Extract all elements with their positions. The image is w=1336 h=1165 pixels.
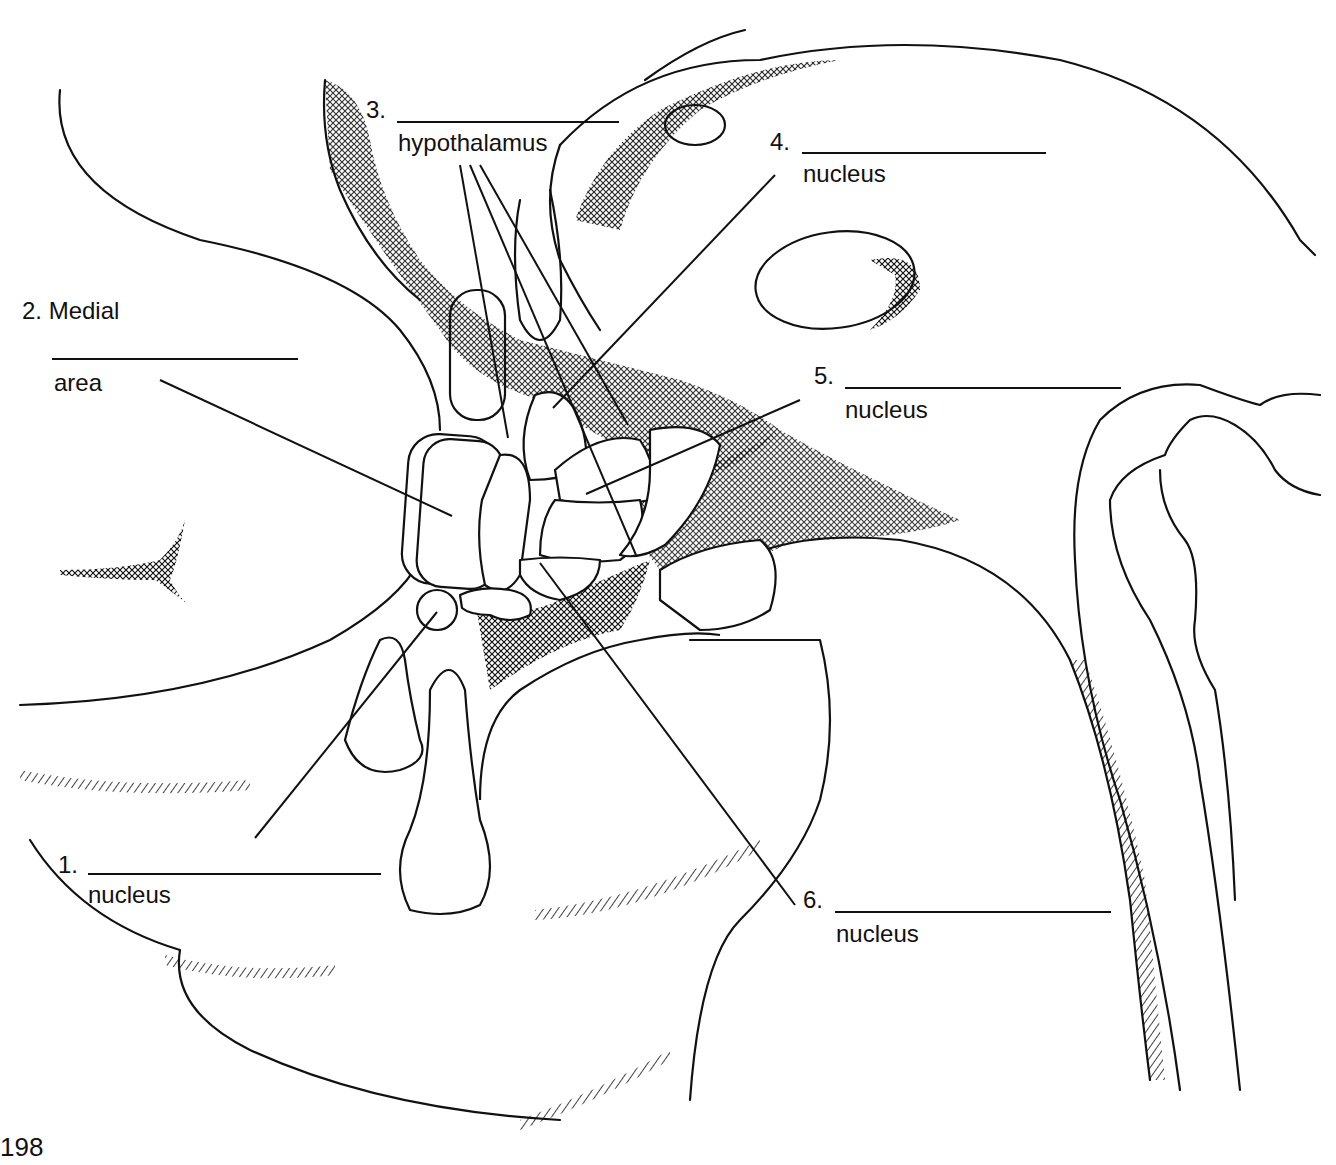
aqueduct-inner2	[1160, 470, 1235, 900]
label-3-number: 3.	[366, 97, 386, 123]
hatch-pons-mid	[535, 840, 760, 920]
nucleus-supraoptic	[460, 588, 531, 620]
hatch-pons-bottom	[520, 1050, 670, 1130]
pituitary-stalk	[345, 638, 423, 773]
outer-contour-arc	[560, 45, 1315, 255]
hatch-upper-arc	[575, 60, 840, 230]
hatch-left-star	[60, 520, 195, 610]
outer-contour-top	[645, 30, 745, 80]
hatch-left-arc1	[20, 770, 250, 793]
label-1-number: 1.	[58, 852, 78, 878]
paraventricular-lobe	[515, 190, 561, 340]
label-2-suffix: area	[54, 370, 102, 396]
leader-line-2	[160, 380, 452, 516]
label-3-suffix: hypothalamus	[398, 130, 547, 156]
label-4-answer-blank[interactable]	[802, 152, 1046, 154]
lower-left-contour	[20, 560, 420, 705]
hatch-pons-lower	[165, 955, 335, 978]
hatch-commissure	[870, 258, 920, 330]
label-5-answer-blank[interactable]	[845, 387, 1121, 389]
label-4-number: 4.	[770, 129, 790, 155]
label-3-answer-blank[interactable]	[397, 121, 619, 123]
label-1-suffix: nucleus	[88, 882, 171, 908]
label-6-answer-blank[interactable]	[835, 911, 1111, 913]
label-5-suffix: nucleus	[845, 397, 928, 423]
label-5-number: 5.	[814, 363, 834, 389]
label-2-answer-blank[interactable]	[52, 358, 298, 360]
midbrain-contour	[740, 538, 1150, 1081]
label-6-suffix: nucleus	[836, 921, 919, 947]
anterior-commissure	[749, 221, 921, 338]
page-number: 198	[0, 1132, 43, 1163]
left-contour	[59, 90, 440, 430]
hatch-right-edge	[1070, 660, 1165, 1080]
nucleus-suprachiasmatic	[417, 590, 457, 630]
label-6-number: 6.	[803, 887, 823, 913]
hypothalamus-diagram	[0, 0, 1336, 1165]
aqueduct-outer	[1074, 384, 1320, 1090]
label-2-number: 2. Medial	[22, 298, 119, 324]
label-4-suffix: nucleus	[803, 161, 886, 187]
label-1-answer-blank[interactable]	[88, 873, 381, 875]
